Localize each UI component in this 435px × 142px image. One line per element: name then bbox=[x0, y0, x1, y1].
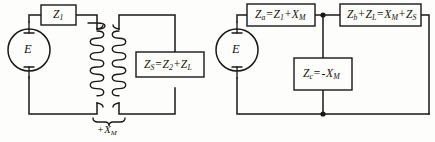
label-xm-base: X bbox=[104, 124, 111, 135]
label-zs-op2: + bbox=[173, 58, 181, 70]
junction-dot-bottom bbox=[320, 111, 325, 116]
circuit-diagram-canvas: .w{fill:none;stroke:#1a1814;stroke-width… bbox=[0, 0, 435, 142]
label-z1: Z1 bbox=[53, 9, 64, 22]
label-zc-s2: M bbox=[333, 72, 340, 81]
label-zb-op3: + bbox=[398, 8, 406, 20]
transformer-primary-winding bbox=[88, 23, 105, 107]
label-zb-p1: Z bbox=[347, 8, 354, 20]
label-z1-sub: 1 bbox=[60, 13, 64, 22]
label-zb-s4: S bbox=[413, 13, 417, 22]
label-zs-s3: L bbox=[187, 63, 192, 72]
label-zc-p1: Z bbox=[303, 67, 310, 79]
label-zs: ZS=Z2+ZL bbox=[144, 59, 192, 72]
junction-dot-top bbox=[320, 12, 325, 17]
label-zb-s2: L bbox=[372, 13, 377, 22]
wire-source-to-primary-coil-bottom bbox=[29, 77, 97, 114]
label-zs-p1: Z bbox=[144, 58, 151, 70]
label-za: Za=Z1+XM bbox=[255, 9, 306, 22]
label-xm-sub: M bbox=[111, 129, 117, 137]
label-zb-p4: Z bbox=[406, 8, 413, 20]
label-zb: Zb+ZL=XM+ZS bbox=[347, 9, 417, 22]
label-zc: Zc=-XM bbox=[303, 68, 340, 81]
wire-secondary-top bbox=[119, 15, 175, 52]
wire-source-to-z1 bbox=[29, 15, 41, 22]
wire-secondary-bottom bbox=[119, 88, 175, 114]
label-za-s3: M bbox=[299, 13, 306, 22]
wire-zb-to-right-rail bbox=[421, 15, 429, 114]
wire-source-to-za bbox=[237, 15, 247, 22]
label-mutual-coupling: +XM bbox=[97, 125, 117, 137]
label-za-p1: Z bbox=[255, 8, 262, 20]
label-za-op2: + bbox=[284, 8, 292, 20]
label-source-left: E bbox=[24, 43, 32, 56]
label-za-p3: X bbox=[292, 8, 299, 20]
wire-z1-to-primary-coil bbox=[76, 15, 97, 29]
label-source-right: E bbox=[232, 43, 240, 56]
label-zc-op1: = bbox=[313, 67, 321, 79]
transformer-secondary-winding bbox=[112, 25, 126, 107]
label-z1-base: Z bbox=[53, 8, 60, 20]
